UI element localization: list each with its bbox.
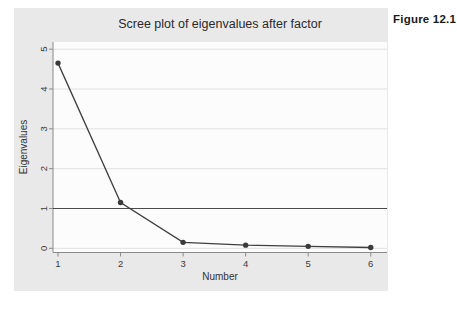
data-point-6 (368, 245, 373, 250)
data-point-2 (118, 200, 123, 205)
page: Figure 12.1 012345123456 Scree plot of e… (0, 0, 457, 310)
x-tick-label-1: 1 (55, 258, 60, 269)
figure-caption-label: Figure 12.1 (393, 13, 456, 25)
x-tick-label-2: 2 (118, 258, 123, 269)
y-tick-label-5: 5 (38, 47, 49, 52)
y-tick-label-1: 1 (38, 206, 49, 211)
data-point-5 (305, 244, 310, 249)
data-point-3 (180, 240, 185, 245)
scree-plot-svg: 012345123456 (14, 8, 388, 291)
x-tick-label-3: 3 (180, 258, 185, 269)
y-tick-label-3: 3 (38, 126, 49, 131)
plot-area (53, 42, 387, 253)
y-tick-label-2: 2 (38, 166, 49, 171)
x-tick-label-5: 5 (306, 258, 311, 269)
y-tick-label-0: 0 (38, 246, 49, 251)
scree-plot-chart: 012345123456 Scree plot of eigenvalues a… (14, 8, 388, 291)
data-point-1 (55, 60, 60, 65)
data-point-4 (243, 242, 248, 247)
x-tick-label-4: 4 (243, 258, 248, 269)
y-tick-label-4: 4 (38, 86, 49, 91)
chart-title: Scree plot of eigenvalues after factor (53, 17, 387, 31)
y-axis-title: Eigenvalues (18, 120, 29, 174)
x-axis-title: Number (53, 271, 387, 282)
x-tick-label-6: 6 (368, 258, 373, 269)
